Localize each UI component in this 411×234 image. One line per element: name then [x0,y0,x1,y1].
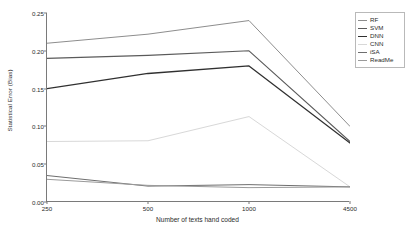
legend-item-label: CNN [370,40,383,48]
chart-lines-svg [47,13,350,202]
legend-line-swatch-icon [358,52,367,53]
legend-item-svm[interactable]: SVM [358,24,402,32]
legend-item-label: RF [370,16,378,24]
y-tick-label: 0.10 [32,123,44,130]
series-line-rf [47,21,350,127]
y-tick-mark [44,50,47,51]
chart-legend: RFSVMDNNCNNiSAReadMe [355,12,405,68]
legend-item-label: iSA [370,48,380,56]
series-group [47,21,350,188]
y-tick-label: 0.25 [32,10,44,17]
x-tick-mark [148,201,149,204]
legend-line-swatch-icon [358,20,367,21]
y-tick-mark [44,13,47,14]
legend-line-swatch-icon [358,28,367,29]
legend-item-readme[interactable]: ReadMe [358,56,402,64]
y-tick-label: 0.20 [32,47,44,54]
chart-figure: Statistical Error (Bias) 0.000.050.100.1… [0,0,411,234]
x-tick-mark [350,201,351,204]
x-tick-label: 250 [42,205,52,212]
x-tick-label: 4500 [343,205,357,212]
y-tick-mark [44,126,47,127]
y-tick-mark [44,88,47,89]
x-tick-label: 500 [143,205,153,212]
legend-line-swatch-icon [358,60,367,61]
y-tick-label: 0.05 [32,161,44,168]
legend-item-isa[interactable]: iSA [358,48,402,56]
legend-item-dnn[interactable]: DNN [358,32,402,40]
plot-area: 0.000.050.100.150.200.25 25050010004500 [46,13,349,202]
legend-line-swatch-icon [358,44,367,45]
legend-item-cnn[interactable]: CNN [358,40,402,48]
series-line-isa [47,176,350,187]
series-line-svm [47,51,350,142]
series-line-dnn [47,66,350,143]
y-axis-label: Statistical Error (Bias) [6,69,13,131]
series-line-cnn [47,117,350,187]
x-tick-mark [249,201,250,204]
legend-item-label: ReadMe [370,56,393,64]
legend-line-swatch-icon [358,36,367,37]
y-axis-label-container: Statistical Error (Bias) [0,0,18,200]
y-tick-label: 0.15 [32,85,44,92]
legend-item-label: SVM [370,24,383,32]
legend-item-rf[interactable]: RF [358,16,402,24]
x-tick-mark [47,201,48,204]
x-axis-label: Number of texts hand coded [46,216,349,223]
x-tick-label: 1000 [242,205,256,212]
legend-item-label: DNN [370,32,383,40]
y-tick-mark [44,164,47,165]
